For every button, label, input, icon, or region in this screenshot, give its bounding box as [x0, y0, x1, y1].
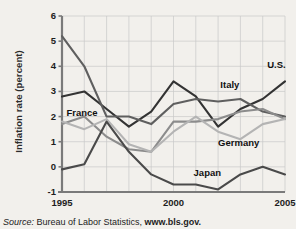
x-tick-label: 2005 — [265, 197, 296, 208]
y-axis-label: Inflation rate (percent) — [13, 22, 24, 182]
y-tick-label: 3 — [38, 85, 56, 96]
inflation-rate-chart-figure: Inflation rate (percent) 6543210-1 19952… — [0, 0, 296, 229]
y-tick-label: 1 — [38, 136, 56, 147]
x-tick-label: 1995 — [42, 197, 82, 208]
y-tick-label: 4 — [38, 60, 56, 71]
source-prefix: Source: — [3, 217, 34, 227]
series-label-france: France — [66, 107, 97, 118]
series-label-italy: Italy — [220, 79, 239, 90]
y-tick-label: 5 — [38, 35, 56, 46]
series-label-japan: Japan — [194, 167, 221, 178]
source-note: Source: Bureau of Labor Statistics, www.… — [3, 217, 201, 227]
source-link: www.bls.gov. — [145, 217, 202, 227]
series-label-us: U.S. — [267, 59, 285, 70]
series-label-germany: Germany — [218, 137, 259, 148]
y-tick-label: 6 — [38, 10, 56, 21]
y-tick-label: -1 — [38, 186, 56, 197]
source-body: Bureau of Labor Statistics, — [34, 217, 145, 227]
y-tick-label: 0 — [38, 161, 56, 172]
y-tick-label: 2 — [38, 111, 56, 122]
x-tick-label: 2000 — [154, 197, 194, 208]
